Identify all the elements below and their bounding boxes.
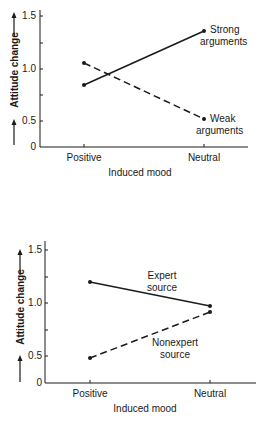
arrow-up-icon [12, 119, 17, 125]
y-tick-label: 1.0 [28, 297, 42, 308]
x-category-positive: Positive [72, 388, 107, 399]
chart-2: 1.5 1.0 0.5 0 Attitude change Positive N… [15, 241, 256, 414]
y-axis-title: Attitude change [15, 249, 26, 382]
series-strong-arguments: Strong arguments [82, 24, 247, 87]
y-tick-label: 1.5 [22, 10, 36, 21]
series-weak-arguments: Weak arguments [82, 61, 243, 136]
series-label: Strong [210, 24, 239, 35]
figure: 1.5 1.0 0.5 0 Attitude change Positive N… [0, 0, 265, 421]
series-label: Expert [148, 270, 177, 281]
chart-1: 1.5 1.0 0.5 0 Attitude change Positive N… [9, 10, 248, 178]
series-label: arguments [196, 125, 243, 136]
svg-text:Attitude change: Attitude change [9, 32, 20, 108]
data-point [82, 61, 86, 65]
data-point [208, 310, 212, 314]
x-category-neutral: Neutral [188, 152, 220, 163]
data-point [202, 29, 206, 33]
series-nonexpert-source: Nonexpert source [88, 310, 212, 360]
x-category-positive: Positive [66, 152, 101, 163]
series-label: source [160, 349, 190, 360]
data-point [88, 356, 92, 360]
series-expert-source: Expert source [88, 270, 212, 308]
svg-text:Attitude change: Attitude change [15, 269, 26, 345]
y-tick-label: 0.5 [28, 350, 42, 361]
series-label: Nonexpert [152, 337, 198, 348]
data-point [202, 117, 206, 121]
x-axis-title: Induced mood [113, 403, 176, 414]
y-tick-label: 0 [30, 141, 36, 152]
y-tick-label: 0 [36, 377, 42, 388]
series-label: source [147, 282, 177, 293]
x-category-neutral: Neutral [194, 388, 226, 399]
y-tick-label: 1.5 [28, 244, 42, 255]
data-point [82, 83, 86, 87]
series-label: Weak [210, 113, 236, 124]
data-point [208, 304, 212, 308]
arrow-up-icon [12, 12, 17, 18]
arrow-up-icon [18, 355, 23, 361]
series-label: arguments [200, 36, 247, 47]
data-point [88, 280, 92, 284]
y-axis-title: Attitude change [9, 12, 20, 145]
y-tick-label: 0.5 [22, 115, 36, 126]
x-axis-title: Induced mood [108, 167, 171, 178]
arrow-up-icon [18, 249, 23, 255]
y-tick-label: 1.0 [22, 63, 36, 74]
